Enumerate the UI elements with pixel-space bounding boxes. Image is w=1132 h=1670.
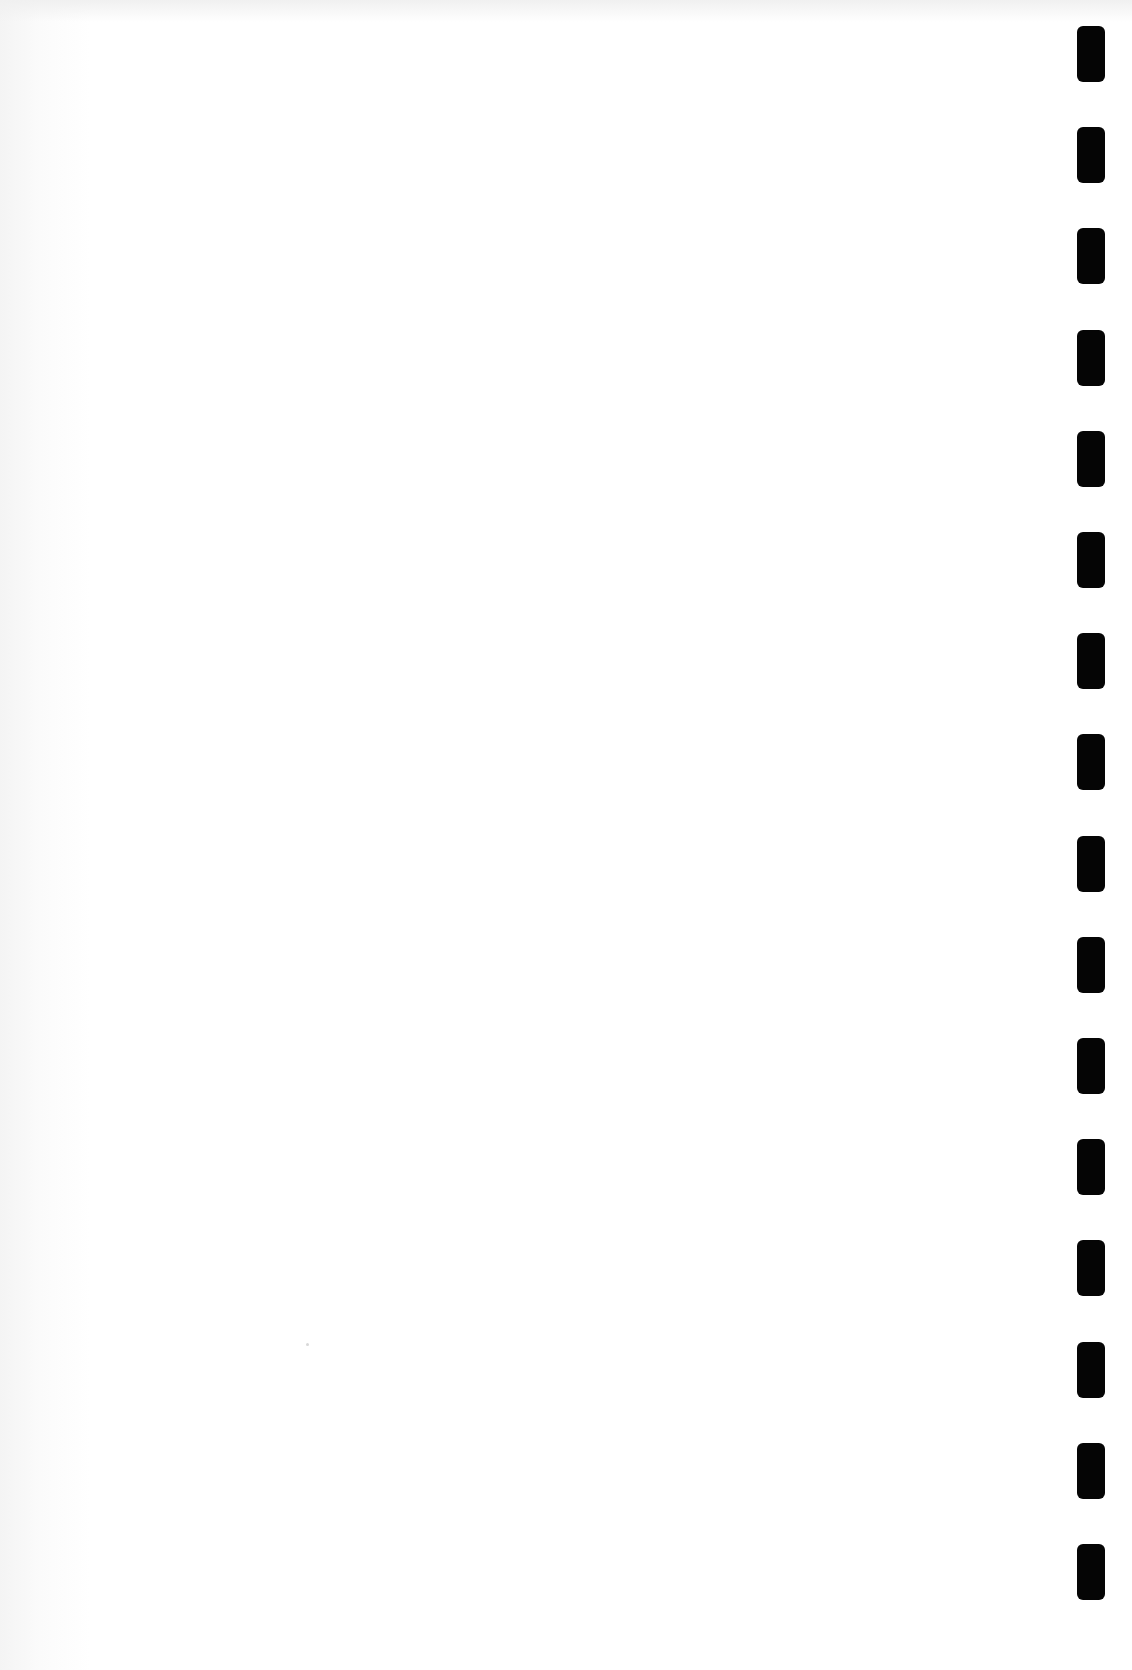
binding-hole [1077, 1240, 1105, 1296]
binding-hole [1077, 937, 1105, 993]
binding-hole [1077, 532, 1105, 588]
binding-hole [1077, 734, 1105, 790]
binding-hole [1077, 1139, 1105, 1195]
binding-hole [1077, 228, 1105, 284]
binding-hole [1077, 1443, 1105, 1499]
scan-speck [306, 1343, 309, 1346]
blank-page [0, 0, 1132, 1670]
binding-hole [1077, 633, 1105, 689]
binding-hole [1077, 836, 1105, 892]
binding-hole [1077, 1038, 1105, 1094]
binding-hole [1077, 431, 1105, 487]
binding-hole [1077, 26, 1105, 82]
binding-hole [1077, 1544, 1105, 1600]
binding-hole [1077, 1342, 1105, 1398]
binding-hole [1077, 330, 1105, 386]
scan-edge-shadow [0, 0, 1132, 22]
binding-hole [1077, 127, 1105, 183]
